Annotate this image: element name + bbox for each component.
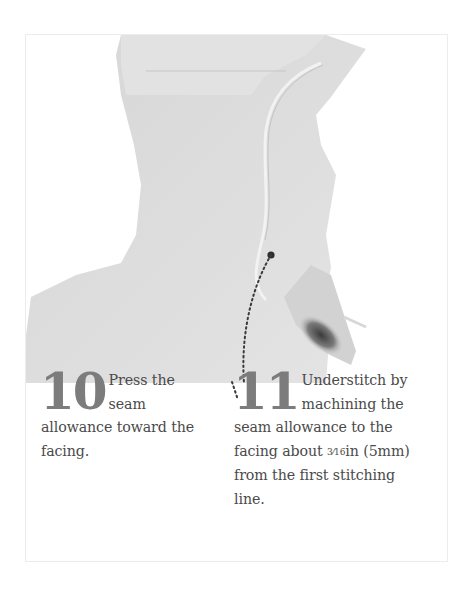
- step-11: 11 Understitch by machining the seam all…: [234, 369, 414, 511]
- step-text: allowance toward the facing.: [41, 419, 194, 459]
- garment-photo: [26, 35, 447, 383]
- fraction: 3⁄16: [327, 447, 345, 457]
- step-number: 10: [40, 372, 106, 412]
- garment-photo-icon: [26, 35, 447, 383]
- step-10: 10 Press the seam allowance toward the f…: [41, 369, 211, 463]
- step-text-lead: Understitch by machining the: [302, 372, 408, 412]
- step-text-lead: Press the seam: [109, 372, 175, 412]
- step-number: 11: [233, 372, 299, 412]
